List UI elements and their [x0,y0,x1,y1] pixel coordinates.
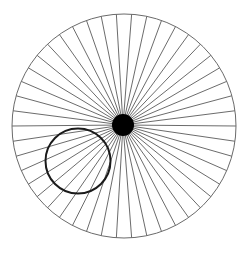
spoke-line [28,125,123,184]
spoke-line [123,125,200,208]
spoke-line [37,55,123,125]
spoke-line [16,96,123,125]
spoke-line [72,125,123,225]
spoke-line [123,27,176,125]
spoke-line [123,14,132,125]
spoke-line [123,125,176,225]
diagram-canvas [0,0,251,254]
spoke-line [123,125,220,184]
center-hub-dot [112,114,134,136]
spoke-line [123,68,220,125]
spoke-line [123,125,236,126]
spoke-line [123,96,232,125]
spoke-line [48,44,123,125]
spoke-line [123,125,132,238]
radial-spoke-illusion [0,0,251,254]
spoke-line [123,125,227,171]
spoke-line [123,125,232,156]
spoke-line [48,125,123,208]
spoke-line [12,125,123,126]
spoke-line [123,44,200,125]
